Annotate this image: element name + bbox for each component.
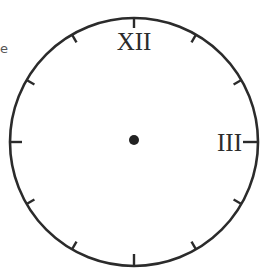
clock-face: XII III <box>0 0 262 279</box>
tick-7 <box>72 242 77 250</box>
tick-4 <box>234 200 242 205</box>
tick-8 <box>27 200 35 205</box>
numeral-twelve: XII <box>117 28 152 55</box>
tick-2 <box>234 80 242 85</box>
tick-1 <box>192 35 197 43</box>
tick-10 <box>27 80 35 85</box>
numeral-three: III <box>217 129 242 156</box>
tick-11 <box>72 35 77 43</box>
center-dot <box>129 135 139 145</box>
tick-5 <box>192 242 197 250</box>
